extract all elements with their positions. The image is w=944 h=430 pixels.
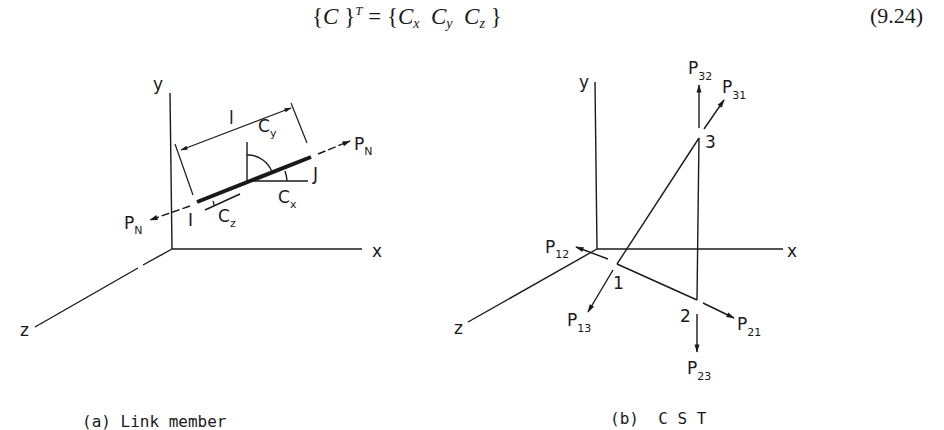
p31-label: P31 <box>722 77 746 102</box>
y-axis <box>170 93 172 249</box>
y-axis-label: y <box>579 72 589 92</box>
pn-sub: N <box>364 145 372 158</box>
cy-label: Cy <box>258 116 277 140</box>
p-sub: 13 <box>577 322 591 335</box>
y-axis <box>595 82 597 249</box>
p-sub: 32 <box>698 70 712 83</box>
cy-angle-arc <box>247 155 272 172</box>
p-sub: 31 <box>732 89 746 102</box>
x-axis-label: x <box>372 241 382 261</box>
z-axis-label: z <box>454 318 463 338</box>
node-i-label: I <box>188 210 193 230</box>
p-sub: 21 <box>747 326 761 339</box>
edge-3-2 <box>697 138 699 300</box>
z-axis <box>35 268 138 327</box>
pn-left-label: PN <box>124 213 143 237</box>
cx-angle-arc <box>285 171 287 181</box>
link-member-bar <box>197 157 311 202</box>
cz-base: C <box>218 206 230 226</box>
pn-right-label: PN <box>354 134 373 158</box>
pn-arrow-left <box>150 206 190 220</box>
edge-1-3 <box>617 138 699 264</box>
caption-b: (b) C S T <box>610 409 707 428</box>
p13-label: P13 <box>567 310 591 335</box>
p-sub: 23 <box>697 370 711 383</box>
panel-a-link-member <box>35 93 362 327</box>
cz-sub: z <box>230 217 236 230</box>
dimension-extension-right <box>291 103 307 143</box>
p-base: P <box>545 237 555 257</box>
p31-arrow <box>704 100 724 129</box>
p13-arrow <box>588 270 613 312</box>
p23-label: P23 <box>687 358 711 383</box>
pn-arrow-right <box>318 141 350 154</box>
z-axis-label: z <box>20 320 29 340</box>
p-sub: 12 <box>555 248 569 261</box>
p-base: P <box>737 314 747 334</box>
p32-label: P32 <box>688 58 712 83</box>
p-base: P <box>687 358 697 378</box>
node-1-label: 1 <box>613 273 624 293</box>
p12-label: P12 <box>545 237 569 261</box>
edge-1-2 <box>617 264 697 300</box>
p21-label: P21 <box>737 314 761 339</box>
pn-base: P <box>354 134 364 154</box>
node-j-label: J <box>312 164 318 184</box>
z-axis <box>143 249 172 265</box>
cz-label: Cz <box>218 206 236 230</box>
y-axis-label: y <box>153 74 163 94</box>
p-base: P <box>688 58 698 78</box>
node-3-label: 3 <box>705 132 716 152</box>
panel-a-labels: y x z l I J PN PN Cy Cx Cz (a) Link memb… <box>20 74 382 430</box>
cx-sub: x <box>290 198 297 211</box>
cy-sub: y <box>270 127 277 140</box>
cx-base: C <box>278 187 290 207</box>
node-2-label: 2 <box>680 306 691 326</box>
z-axis <box>468 249 597 322</box>
figure-canvas: y x z l I J PN PN Cy Cx Cz (a) Link memb… <box>0 0 944 430</box>
p21-arrow <box>703 303 734 318</box>
panel-b-labels: y x z 3 1 2 P32 P31 P12 P13 P21 P23 (b) … <box>454 58 797 428</box>
p-base: P <box>722 77 732 97</box>
cz-angle-arc <box>213 201 214 206</box>
cx-label: Cx <box>278 187 297 211</box>
p-base: P <box>567 310 577 330</box>
length-label: l <box>229 108 234 128</box>
pn-base: P <box>124 213 134 233</box>
dimension-extension-left <box>175 144 193 195</box>
cy-base: C <box>258 116 270 136</box>
pn-sub: N <box>134 224 142 237</box>
panel-b-cst <box>468 82 783 352</box>
x-axis-label: x <box>787 241 797 261</box>
caption-a: (a) Link member <box>82 412 227 430</box>
